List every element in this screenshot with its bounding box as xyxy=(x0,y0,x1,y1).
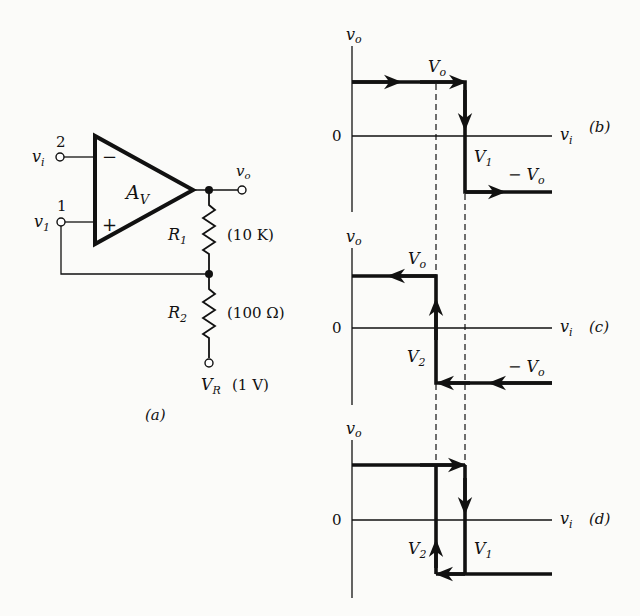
reference-value: (1 V) xyxy=(232,376,269,394)
hysteresis-comparator-figure: − + AV 2 vi 1 v1 vo R1 (10 K) R2 (100 Ω)… xyxy=(0,0,640,616)
output-label: vo xyxy=(236,162,251,181)
svg-text:vi: vi xyxy=(560,125,573,147)
caption-a: (a) xyxy=(145,406,166,424)
svg-text:0: 0 xyxy=(332,511,342,529)
circuit-schematic: − + AV 2 vi 1 v1 vo R1 (10 K) R2 (100 Ω)… xyxy=(32,133,285,424)
resistor-r1 xyxy=(203,190,215,274)
svg-text:0: 0 xyxy=(332,319,342,337)
r1-label: R1 xyxy=(167,225,187,247)
gain-label: AV xyxy=(124,181,151,207)
svg-text:vo: vo xyxy=(346,25,362,46)
svg-text:vo: vo xyxy=(346,227,362,248)
r2-label: R2 xyxy=(167,303,187,325)
input2-label: vi xyxy=(32,147,45,169)
reference-terminal xyxy=(205,359,213,367)
svg-text:− Vo: − Vo xyxy=(508,357,545,379)
output-terminal xyxy=(238,186,246,194)
svg-text:Vo: Vo xyxy=(408,249,427,271)
reference-label: VR xyxy=(201,375,221,397)
svg-text:V1: V1 xyxy=(474,539,493,561)
input2-number: 2 xyxy=(56,133,66,151)
svg-text:V2: V2 xyxy=(407,347,426,369)
input1-label: v1 xyxy=(34,212,50,234)
caption-d: (d) xyxy=(589,510,610,528)
input1-terminal xyxy=(57,218,65,226)
svg-text:vi: vi xyxy=(560,509,573,531)
graph-b: vo 0 vi (b) Vo V1 − Vo xyxy=(332,25,610,212)
graph-c: vo 0 vi (c) Vo V2 − Vo xyxy=(332,227,609,405)
svg-text:V2: V2 xyxy=(408,539,427,561)
r1-value: (10 K) xyxy=(227,226,274,244)
graph-d: vo 0 vi (d) V2 V1 xyxy=(332,419,610,598)
caption-b: (b) xyxy=(589,118,610,136)
caption-c: (c) xyxy=(589,318,609,336)
noninverting-sign: + xyxy=(102,214,117,235)
resistor-r2 xyxy=(203,274,215,358)
svg-text:V1: V1 xyxy=(474,147,493,169)
svg-text:0: 0 xyxy=(332,127,342,145)
input2-terminal xyxy=(56,153,64,161)
svg-text:vi: vi xyxy=(560,317,573,339)
input1-number: 1 xyxy=(57,197,67,215)
svg-text:− Vo: − Vo xyxy=(508,165,545,187)
svg-text:Vo: Vo xyxy=(428,57,447,79)
r2-value: (100 Ω) xyxy=(227,304,285,322)
inverting-sign: − xyxy=(102,146,117,167)
svg-text:vo: vo xyxy=(346,419,362,440)
